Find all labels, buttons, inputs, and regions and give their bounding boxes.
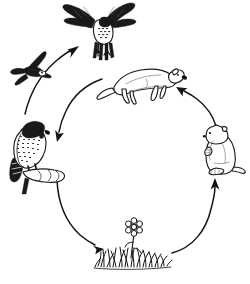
arrow-prairie-dog-to-weasel	[176, 87, 216, 126]
arrow-grass-to-prairie-dog	[172, 178, 219, 253]
flower-head	[126, 218, 143, 237]
arrow-weasel-to-falcon	[55, 79, 102, 142]
grass-tuft-with-flower-icon	[94, 218, 172, 270]
arrow-falcon-to-hawk	[25, 46, 79, 114]
prairie-dog-icon	[203, 125, 246, 174]
swallow-in-flight-icon	[11, 52, 52, 86]
arrow-falcon-to-grass	[57, 180, 104, 254]
food-chain-cycle-diagram: Grassland food chain cycle	[0, 0, 250, 284]
weasel-icon	[97, 69, 187, 104]
diagram-canvas	[0, 0, 250, 284]
grass-blades	[94, 247, 172, 269]
